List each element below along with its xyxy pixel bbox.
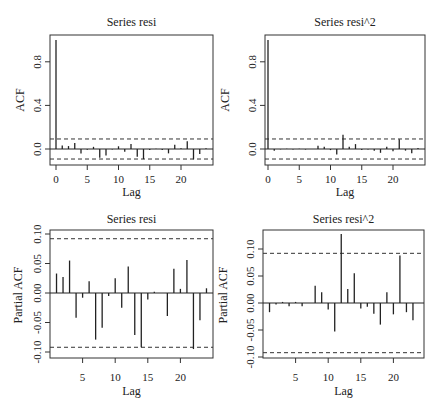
y-tick-label: 0.4 bbox=[31, 98, 43, 112]
chart-title: Series resi bbox=[107, 15, 157, 29]
y-tick-label: -0.05 bbox=[244, 318, 256, 341]
y-tick-label: 0.0 bbox=[31, 142, 43, 156]
x-tick-label: 5 bbox=[293, 371, 299, 383]
y-tick-label: 0.10 bbox=[31, 224, 43, 244]
x-tick-label: 10 bbox=[110, 371, 122, 383]
x-tick-label: 20 bbox=[175, 371, 187, 383]
x-tick-label: 10 bbox=[113, 173, 125, 185]
y-tick-label: 0.05 bbox=[244, 266, 256, 286]
acf-resi-chart: Series resi051015200.00.40.8LagACF bbox=[0, 0, 220, 205]
x-tick-label: 5 bbox=[297, 173, 303, 185]
y-tick-label: 0.0 bbox=[246, 142, 258, 156]
x-tick-label: 20 bbox=[176, 173, 188, 185]
x-axis-label: Lag bbox=[122, 384, 141, 398]
y-axis-label: ACF bbox=[218, 88, 232, 112]
y-tick-label: -0.05 bbox=[31, 311, 43, 334]
x-axis-label: Lag bbox=[336, 185, 355, 199]
y-axis-label: Partial ACF bbox=[11, 266, 25, 323]
y-tick-label: 0.8 bbox=[31, 54, 43, 68]
y-tick-label: -0.10 bbox=[31, 340, 43, 363]
y-tick-label: 0.00 bbox=[31, 283, 43, 303]
plot-frame bbox=[265, 35, 425, 165]
x-tick-label: 20 bbox=[388, 371, 400, 383]
y-tick-label: 0.10 bbox=[244, 239, 256, 259]
pacf-resi-squared-chart: Series resi^25101520-0.10-0.050.000.050.… bbox=[213, 205, 439, 410]
plot-frame bbox=[50, 230, 213, 358]
x-tick-label: 5 bbox=[80, 371, 86, 383]
x-tick-label: 15 bbox=[355, 371, 367, 383]
chart-title: Series resi^2 bbox=[313, 212, 374, 226]
chart-title: Series resi^2 bbox=[314, 15, 375, 29]
y-tick-label: 0.05 bbox=[31, 253, 43, 273]
y-axis-label: ACF bbox=[13, 88, 27, 112]
x-tick-label: 10 bbox=[325, 173, 337, 185]
x-tick-label: 15 bbox=[356, 173, 368, 185]
x-axis-label: Lag bbox=[122, 185, 141, 199]
pacf-resi-chart: Series resi5101520-0.10-0.050.000.050.10… bbox=[0, 205, 220, 410]
y-tick-label: 0.00 bbox=[244, 293, 256, 313]
x-tick-label: 20 bbox=[388, 173, 400, 185]
y-axis-label: Partial ACF bbox=[216, 266, 230, 323]
chart-title: Series resi bbox=[107, 212, 157, 226]
x-tick-label: 15 bbox=[142, 371, 154, 383]
x-tick-label: 10 bbox=[323, 371, 335, 383]
x-tick-label: 0 bbox=[53, 173, 59, 185]
x-tick-label: 0 bbox=[265, 173, 271, 185]
x-tick-label: 15 bbox=[144, 173, 156, 185]
x-axis-label: Lag bbox=[334, 384, 353, 398]
acf-resi-squared-chart: Series resi^2051015200.00.40.8LagACF bbox=[213, 0, 439, 205]
y-tick-label: 0.8 bbox=[246, 54, 258, 68]
y-tick-label: -0.10 bbox=[244, 345, 256, 368]
y-tick-label: 0.4 bbox=[246, 98, 258, 112]
x-tick-label: 5 bbox=[85, 173, 91, 185]
